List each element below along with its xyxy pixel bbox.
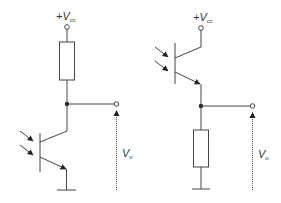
resistor-left: [60, 42, 75, 80]
vcc-terminal-left: [65, 25, 70, 30]
collector-lead: [175, 47, 201, 58]
output-terminal-left: [114, 102, 119, 107]
emitter-arrow: [175, 72, 200, 84]
vo-label-left: Vo: [122, 147, 133, 160]
vcc-label-right: +Vcc: [193, 11, 213, 24]
output-terminal-right: [250, 104, 255, 109]
arrow-up-icon: [250, 112, 256, 118]
vo-label-right: Vo: [258, 148, 269, 161]
phototransistor-right: [155, 43, 201, 84]
emitter-arrow: [40, 157, 66, 169]
phototransistor-left: [20, 131, 67, 172]
light-arrow-icon: [20, 131, 33, 141]
arrow-up-icon: [114, 110, 120, 116]
vcc-terminal-right: [199, 26, 204, 31]
vcc-label-left: +Vcc: [56, 10, 76, 23]
light-arrow-icon: [20, 145, 33, 155]
circuit-right: +Vcc Vo: [155, 11, 269, 190]
light-arrow-icon: [155, 61, 168, 71]
resistor-right: [194, 130, 209, 167]
light-arrow-icon: [155, 47, 168, 57]
collector-lead: [40, 131, 67, 142]
circuit-left: +Vcc Vo: [20, 10, 133, 190]
circuit-diagram: +Vcc Vo +Vcc: [0, 0, 281, 203]
